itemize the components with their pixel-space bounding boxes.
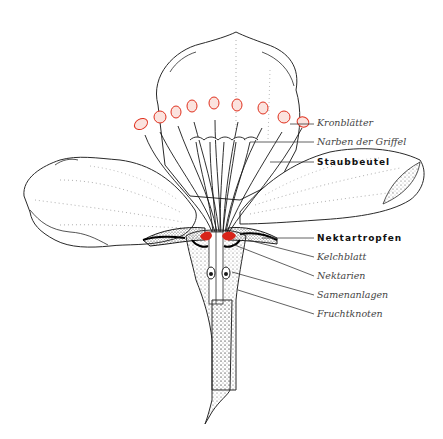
label-kelchblatt: Kelchblatt bbox=[317, 251, 366, 263]
flower-illustration bbox=[0, 0, 443, 439]
label-nektarien: Nektarien bbox=[317, 270, 366, 282]
label-fruchtknoten: Fruchtknoten bbox=[317, 308, 383, 320]
flower-diagram: Kronblätter Narben der Griffel Staubbeut… bbox=[0, 0, 443, 439]
label-nektartropfen: Nektartropfen bbox=[317, 232, 402, 244]
label-narben-der-griffel: Narben der Griffel bbox=[317, 136, 406, 148]
label-kronblaetter: Kronblätter bbox=[317, 117, 373, 129]
label-staubbeutel: Staubbeutel bbox=[317, 156, 390, 168]
label-samenanlagen: Samenanlagen bbox=[317, 289, 388, 301]
stigmas bbox=[190, 137, 258, 140]
